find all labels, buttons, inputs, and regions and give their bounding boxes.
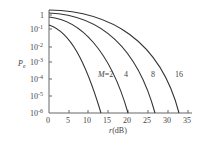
y-tick-label: 10-5 xyxy=(30,91,43,101)
x-tick-label: 15 xyxy=(103,116,111,125)
label-m8: 8 xyxy=(151,70,155,79)
y-tick-label: 10-2 xyxy=(30,42,43,52)
curve-m2 xyxy=(49,25,101,113)
curve-m8 xyxy=(49,13,155,113)
chart: 1 10-1 10-2 10-3 10-4 10-5 10-6 Pe 0 5 1… xyxy=(0,0,201,147)
curve-m16 xyxy=(49,10,179,113)
x-tick-label: 25 xyxy=(143,116,151,125)
y-tick-label: 1 xyxy=(40,11,44,20)
curves xyxy=(49,10,179,113)
label-m16: 16 xyxy=(175,70,183,79)
label-m2: M=2 xyxy=(97,70,113,79)
x-tick-label: 5 xyxy=(66,116,70,125)
x-tick-label: 35 xyxy=(183,116,191,125)
y-axis-label: Pe xyxy=(17,59,26,69)
y-tick-label: 10-4 xyxy=(30,74,43,84)
y-tick-label: 10-1 xyxy=(30,24,43,34)
x-tick-label: 10 xyxy=(83,116,91,125)
x-tick-label: 20 xyxy=(123,116,131,125)
y-tick-label: 10-3 xyxy=(30,57,43,67)
label-m4: 4 xyxy=(124,70,128,79)
x-tick-label: 30 xyxy=(163,116,171,125)
x-axis-label: r(dB) xyxy=(109,126,127,135)
x-tick-label: 0 xyxy=(46,116,50,125)
x-ticks: 0 5 10 15 20 25 30 35 xyxy=(46,110,191,125)
y-tick-label: 10-6 xyxy=(30,108,43,118)
